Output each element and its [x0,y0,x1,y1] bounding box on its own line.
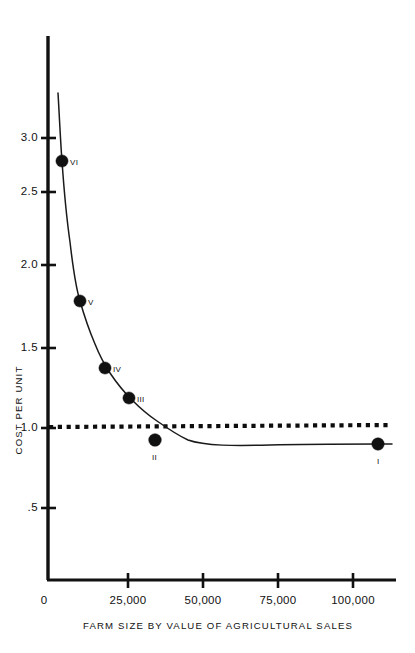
y-tick-label-2-0: 2.0 [21,258,38,270]
y-tick-label-1-5: 1.5 [21,341,38,353]
data-point-i-marker [372,438,384,450]
data-point-vi-marker [56,155,68,167]
y-tick-label-0-5: .5 [28,501,38,513]
data-point-label-ii: II [152,453,157,462]
data-point-ii-marker [149,434,162,447]
data-point-label-iv: IV [113,365,122,374]
x-tick-label-75000: 75,000 [260,594,297,606]
data-point-label-v: V [88,298,94,307]
x-tick-label-0: 0 [41,594,47,606]
data-point-v-marker [74,295,86,307]
x-tick-label-50000: 50,000 [185,594,222,606]
chart-background [0,0,415,653]
data-point-label-iii: III [137,395,145,404]
x-tick-label-100000: 100,000 [331,594,375,606]
data-point-iii-marker [123,392,135,404]
y-tick-label-3-0: 3.0 [21,131,38,143]
y-tick-label-2-5: 2.5 [21,185,38,197]
data-point-iv-marker [99,362,111,374]
cost-per-unit-line-chart: 3.0 2.5 2.0 1.5 1.0 .5 0 25,000 50,000 7… [0,0,415,653]
x-tick-label-25000: 25,000 [110,594,147,606]
y-axis-title: COST PER UNIT [13,366,24,455]
data-point-label-vi: VI [70,158,78,167]
chart-container: 3.0 2.5 2.0 1.5 1.0 .5 0 25,000 50,000 7… [0,0,415,653]
x-axis-title: FARM SIZE BY VALUE OF AGRICULTURAL SALES [83,620,353,631]
data-point-label-i: I [377,457,380,466]
